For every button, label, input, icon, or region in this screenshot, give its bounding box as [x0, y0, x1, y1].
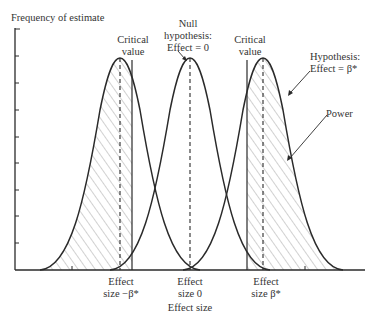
hypothesis-arrow	[288, 71, 310, 96]
power-arrow	[287, 115, 327, 161]
y-axis-label: Frequency of estimate	[11, 12, 104, 24]
critical-value-label-left: Critical value	[113, 34, 153, 58]
hypothesis-label: Hypothesis: Effect = β*	[310, 51, 360, 75]
critical-value-label-right: Critical value	[230, 34, 270, 58]
x-axis-label: Effect size	[160, 302, 220, 314]
null-hypothesis-label: Null hypothesis: Effect = 0	[160, 18, 216, 54]
power-label: Power	[326, 108, 353, 120]
x-tick-label-zero: Effect size 0	[165, 276, 215, 300]
x-tick-label-positive-beta: Effect size β*	[241, 276, 291, 300]
x-tick-label-negative-beta: Effect size −β*	[96, 276, 146, 300]
y-axis-ticks	[15, 29, 20, 243]
